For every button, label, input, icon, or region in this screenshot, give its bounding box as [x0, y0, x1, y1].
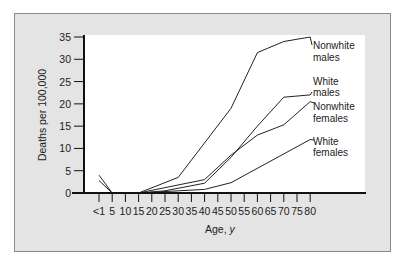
- legend-white-males-line1: White: [313, 76, 339, 87]
- legend-leader-line: [310, 37, 312, 45]
- series-layer: [99, 37, 310, 193]
- x-tick-label: 40: [199, 205, 211, 217]
- x-tick-label: 60: [252, 205, 264, 217]
- y-tick-label: 20: [59, 98, 71, 110]
- legend-leader-line: [310, 92, 312, 95]
- x-tick-label: 70: [278, 205, 290, 217]
- y-tick-label: 10: [59, 142, 71, 154]
- x-tick-label: 15: [133, 205, 145, 217]
- x-tick-label: 65: [265, 205, 277, 217]
- x-tick-label: 25: [159, 205, 171, 217]
- y-axis-title: Deaths per 100,000: [36, 69, 48, 161]
- y-tick-label: 25: [59, 76, 71, 88]
- x-tick-label: <1: [93, 205, 105, 217]
- series-white-males: [139, 95, 311, 193]
- series-nonwhite-males: [99, 37, 310, 193]
- series-nonwhite-females: [99, 102, 310, 193]
- x-tick-label: 80: [304, 205, 316, 217]
- x-tick-label: 35: [186, 205, 198, 217]
- legend-nonwhite-females-line2: females: [313, 113, 348, 124]
- x-axis-title: Age, y: [205, 223, 236, 235]
- x-tick-label: 45: [212, 205, 224, 217]
- x-tick-label: 30: [172, 205, 184, 217]
- y-tick-label: 30: [59, 53, 71, 65]
- legend-white-females-line2: females: [313, 147, 348, 158]
- legend-nonwhite-males-line1: Nonwhite: [313, 40, 355, 51]
- y-ticks: 05101520253035: [59, 31, 84, 199]
- legend-nonwhite-males-line2: males: [313, 52, 340, 63]
- x-tick-label: 5: [109, 205, 115, 217]
- x-tick-label: 20: [146, 205, 158, 217]
- y-tick-label: 0: [65, 187, 71, 199]
- x-tick-label: 75: [291, 205, 303, 217]
- legend-white-males-line2: males: [313, 87, 340, 98]
- y-tick-label: 35: [59, 31, 71, 43]
- legend-nonwhite-females-line1: Nonwhite: [313, 101, 355, 112]
- x-tick-label: 10: [120, 205, 132, 217]
- legend-white-females-line1: White: [313, 136, 339, 147]
- line-chart: 05101520253035 <151015202530354045505560…: [0, 0, 403, 262]
- x-tick-label: 50: [225, 205, 237, 217]
- y-tick-label: 5: [65, 165, 71, 177]
- x-tick-label: 55: [238, 205, 250, 217]
- y-tick-label: 15: [59, 120, 71, 132]
- series-white-females: [139, 140, 311, 194]
- x-ticks: <15101520253035404550556065707580: [93, 193, 316, 217]
